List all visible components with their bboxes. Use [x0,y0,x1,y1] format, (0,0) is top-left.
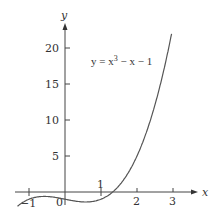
y-tick-label: 10 [45,114,59,127]
equation-label: y = x3 − x − 1 [91,54,152,67]
x-axis-label: x [202,186,209,199]
y-axis-arrow-icon [63,23,68,30]
x-tick-label: 2 [133,195,140,208]
y-axis-label: y [60,9,68,22]
x-tick-label: 1 [97,178,104,191]
x-tick-label: 3 [169,195,176,208]
y-tick-label: 5 [52,150,59,163]
y-ticks [65,48,70,156]
y-tick-label: 20 [45,42,59,55]
x-axis-arrow-icon [191,190,198,195]
y-tick-label: 15 [45,78,59,91]
function-plot: x y −1 0 1 2 3 5 10 15 20 y = x3 − x − 1 [0,0,221,222]
